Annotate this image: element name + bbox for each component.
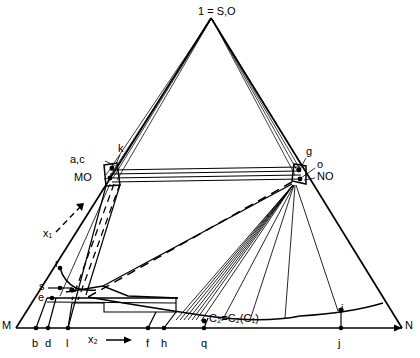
- dot-cluster-1: [69, 287, 74, 292]
- baseline-label-h: h: [161, 338, 167, 349]
- node-label-mo: MO: [74, 172, 92, 183]
- dot-h: [162, 326, 167, 331]
- point-label-e: e: [38, 292, 44, 303]
- dot-s: [58, 286, 63, 291]
- no-ray-fan: [176, 185, 338, 321]
- baseline-label-q: q: [201, 338, 207, 349]
- baseline-label-n: N: [405, 320, 413, 331]
- axis-label-x1: x₁: [43, 228, 52, 239]
- dot-j: [339, 326, 344, 331]
- left-cluster: [47, 268, 178, 313]
- curve-label-i: i: [341, 303, 343, 314]
- figure-root: 1 = S,O a,c k MO g o NO r s e M N b d l …: [0, 0, 420, 358]
- point-label-r: r: [55, 258, 59, 269]
- cluster-box: [72, 303, 176, 312]
- line-e2: [47, 302, 176, 303]
- baseline-label-m: M: [2, 320, 11, 331]
- baseline-label-b: b: [32, 338, 38, 349]
- apex-label: 1 = S,O: [198, 6, 236, 17]
- node-label-k: k: [118, 143, 124, 154]
- dot-d: [46, 326, 51, 331]
- dot-q: [202, 326, 207, 331]
- curve-annotation: C₂=C₂(C₁): [209, 313, 259, 324]
- node-label-o: o: [317, 159, 323, 170]
- dot-e: [50, 296, 55, 301]
- node-label-no: NO: [317, 171, 334, 182]
- dot-curve-q: [202, 319, 207, 324]
- baseline-label-j: j: [338, 338, 340, 349]
- no-solid-rays: [103, 184, 292, 286]
- x2-arrow-head: [124, 337, 132, 344]
- baseline-label-d: d: [45, 338, 51, 349]
- ray-diagram: [0, 0, 420, 358]
- x2-axis-arrow: [106, 337, 132, 344]
- node-label-g: g: [306, 146, 312, 157]
- mo-node-dot-a: [110, 166, 115, 171]
- central-band: [110, 167, 302, 182]
- dot-f: [146, 326, 151, 331]
- dot-b: [34, 326, 39, 331]
- apex-ray-bundle-right: [212, 19, 303, 175]
- baseline-label-f: f: [146, 338, 149, 349]
- left-lower-lines: [60, 184, 120, 328]
- apex-ray-bundle-left: [106, 19, 211, 180]
- node-label-ac: a,c: [70, 154, 85, 165]
- baseline-group: [16, 325, 402, 332]
- axis-label-x2: x₂: [88, 334, 98, 345]
- baseline-label-l: l: [66, 338, 68, 349]
- dot-l: [66, 326, 71, 331]
